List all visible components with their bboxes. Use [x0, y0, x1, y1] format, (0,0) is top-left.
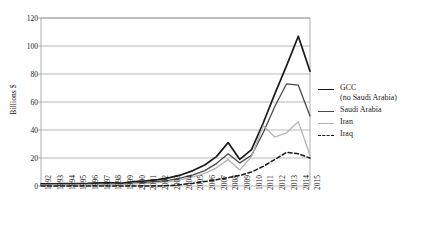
legend-swatch-icon — [318, 135, 334, 136]
legend-label: Iran — [340, 117, 353, 127]
x-tick-label: 2000 — [138, 175, 147, 190]
x-tick-label: 2004 — [185, 175, 194, 190]
x-tick-label: 2013 — [290, 175, 299, 190]
legend-swatch-icon — [318, 89, 334, 90]
x-tick-label: 2007 — [220, 175, 229, 190]
x-tick-label: 2006 — [208, 175, 217, 190]
legend-item: GCC(no Saudi Arabia) — [318, 84, 426, 104]
line-chart: Billions $ 020406080100120 1992199319941… — [0, 0, 427, 243]
x-tick-label: 2003 — [173, 175, 182, 190]
x-tick-label: 2005 — [196, 175, 205, 190]
x-tick-label: 1995 — [79, 175, 88, 190]
legend-label: Saudi Arabia — [340, 105, 382, 115]
legend-item: Iran — [318, 118, 426, 128]
legend-item: Saudi Arabia — [318, 106, 426, 116]
x-tick-label: 2015 — [313, 175, 322, 190]
x-tick-label: 2014 — [302, 175, 311, 190]
legend-swatch-icon — [318, 111, 334, 112]
x-tick-label: 1996 — [91, 175, 100, 190]
x-tick-label: 2001 — [149, 175, 158, 190]
x-tick-label: 1997 — [103, 175, 112, 190]
legend-label: GCC — [340, 83, 356, 93]
x-tick-label: 1994 — [68, 175, 77, 190]
chart-legend: GCC(no Saudi Arabia)Saudi ArabiaIranIraq — [318, 84, 426, 142]
legend-item: Iraq — [318, 130, 426, 140]
x-tick-label: 1992 — [44, 175, 53, 190]
legend-swatch-icon — [318, 123, 334, 124]
x-tick-label: 2008 — [231, 175, 240, 190]
x-tick-label: 2009 — [243, 175, 252, 190]
x-tick-label: 1999 — [126, 175, 135, 190]
x-tick-label: 1010 — [255, 175, 264, 190]
legend-sublabel: (no Saudi Arabia) — [340, 93, 397, 103]
x-tick-label: 1998 — [114, 175, 123, 190]
x-tick-label: 2011 — [266, 175, 275, 190]
x-tick-label: 2012 — [278, 175, 287, 190]
legend-label: Iraq — [340, 129, 353, 139]
x-tick-label: 2002 — [161, 175, 170, 190]
x-tick-label: 1993 — [56, 175, 65, 190]
